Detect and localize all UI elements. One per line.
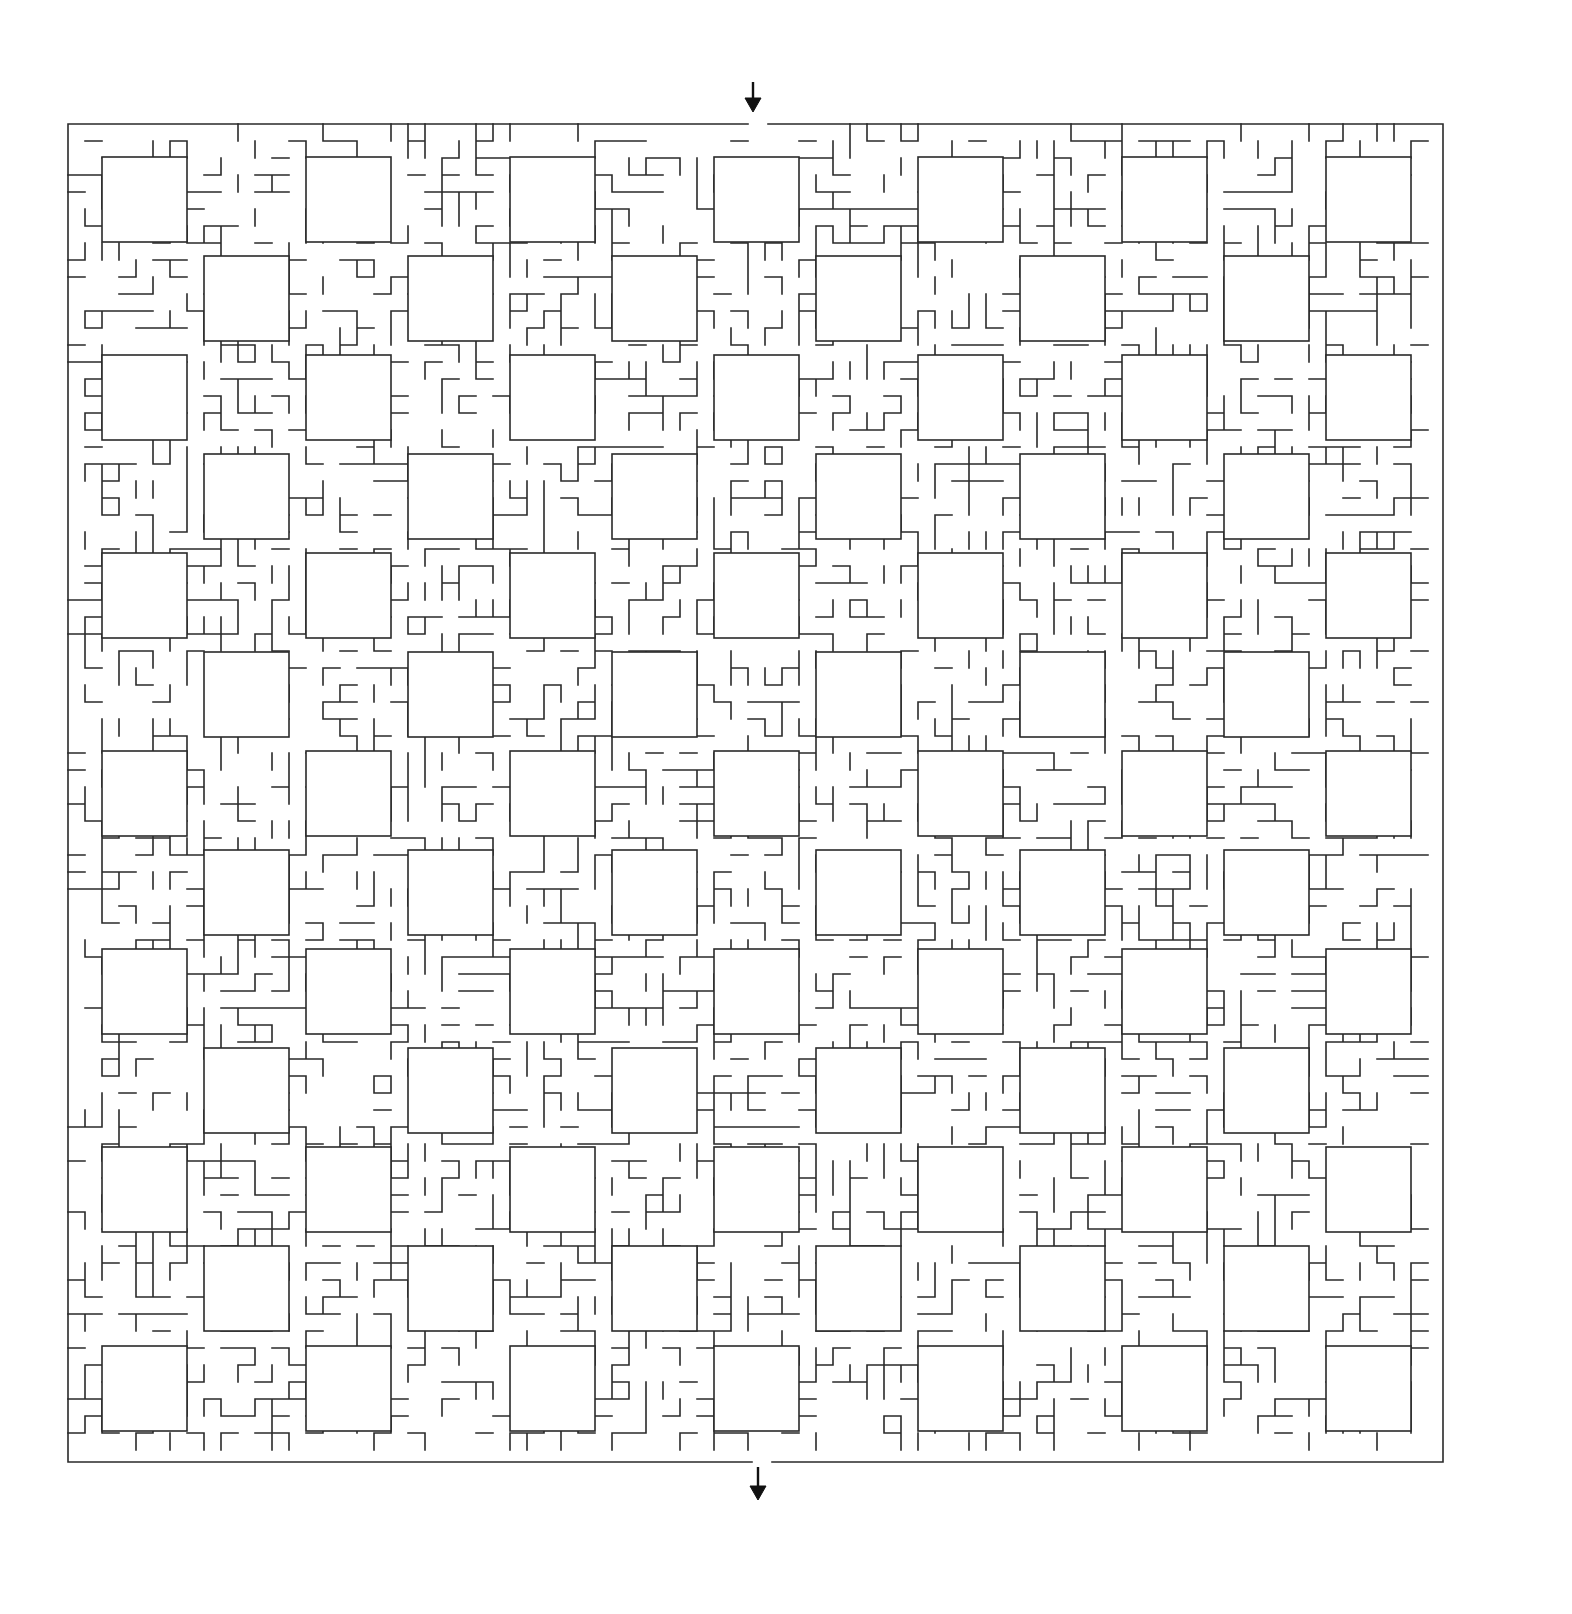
maze-room <box>408 454 493 539</box>
maze-room <box>918 553 1003 638</box>
maze-room <box>714 1147 799 1232</box>
maze-room <box>102 355 187 440</box>
maze-room <box>204 1246 289 1331</box>
maze-room <box>714 751 799 836</box>
maze-room <box>306 157 391 242</box>
maze-room <box>510 1147 595 1232</box>
maze-room <box>306 949 391 1034</box>
maze-room <box>612 850 697 935</box>
maze-room <box>102 949 187 1034</box>
maze-room <box>510 355 595 440</box>
maze-room <box>102 553 187 638</box>
maze-room <box>510 1346 595 1431</box>
maze-room <box>918 1147 1003 1232</box>
maze-room <box>1224 256 1309 341</box>
maze-room <box>816 256 901 341</box>
maze-room <box>816 1048 901 1133</box>
maze-room <box>102 157 187 242</box>
maze-room <box>204 1048 289 1133</box>
maze-room <box>1020 454 1105 539</box>
maze-board[interactable] <box>0 0 1572 1614</box>
maze-room <box>1224 454 1309 539</box>
maze-room <box>204 850 289 935</box>
maze-room <box>918 949 1003 1034</box>
maze-room <box>1326 355 1411 440</box>
maze-room <box>1122 157 1207 242</box>
maze-room <box>204 652 289 737</box>
maze-room <box>1326 1346 1411 1431</box>
maze-room <box>408 256 493 341</box>
maze-room <box>612 1246 697 1331</box>
maze-room <box>204 454 289 539</box>
maze-room <box>1020 1246 1105 1331</box>
maze-room <box>510 751 595 836</box>
maze-room <box>1224 652 1309 737</box>
maze-room <box>612 1048 697 1133</box>
end-arrow-icon <box>750 1467 766 1500</box>
maze-room <box>408 652 493 737</box>
maze-room <box>102 1147 187 1232</box>
maze-room <box>1122 1147 1207 1232</box>
maze-room <box>816 850 901 935</box>
maze-room <box>714 1346 799 1431</box>
maze-room <box>612 256 697 341</box>
maze-room <box>102 751 187 836</box>
maze-room <box>306 1346 391 1431</box>
maze-room <box>102 1346 187 1431</box>
maze-room <box>714 355 799 440</box>
maze-rooms <box>102 157 1411 1431</box>
maze-room <box>408 1246 493 1331</box>
maze-room <box>1020 652 1105 737</box>
maze-room <box>918 355 1003 440</box>
maze-room <box>1122 751 1207 836</box>
maze-room <box>1326 1147 1411 1232</box>
maze-room <box>408 850 493 935</box>
maze-room <box>714 553 799 638</box>
maze-room <box>612 652 697 737</box>
maze-room <box>306 751 391 836</box>
maze-room <box>306 553 391 638</box>
maze-room <box>510 157 595 242</box>
maze-room <box>918 751 1003 836</box>
maze-room <box>1122 949 1207 1034</box>
maze-room <box>918 157 1003 242</box>
maze-room <box>1326 949 1411 1034</box>
maze-room <box>408 1048 493 1133</box>
maze-room <box>1224 1048 1309 1133</box>
maze-room <box>816 1246 901 1331</box>
maze-room <box>714 949 799 1034</box>
maze-room <box>306 1147 391 1232</box>
maze-room <box>1122 355 1207 440</box>
maze-room <box>1224 1246 1309 1331</box>
maze-room <box>204 256 289 341</box>
maze-room <box>918 1346 1003 1431</box>
maze-room <box>1224 850 1309 935</box>
maze-room <box>510 949 595 1034</box>
maze-room <box>1020 256 1105 341</box>
maze-room <box>1122 1346 1207 1431</box>
maze-room <box>1326 553 1411 638</box>
maze-room <box>1326 751 1411 836</box>
maze-room <box>306 355 391 440</box>
maze-room <box>1020 1048 1105 1133</box>
maze-room <box>714 157 799 242</box>
maze-room <box>1122 553 1207 638</box>
maze-room <box>510 553 595 638</box>
maze-room <box>1020 850 1105 935</box>
start-arrow-icon <box>745 82 761 112</box>
maze-room <box>612 454 697 539</box>
maze-room <box>816 652 901 737</box>
maze-room <box>816 454 901 539</box>
maze-room <box>1326 157 1411 242</box>
